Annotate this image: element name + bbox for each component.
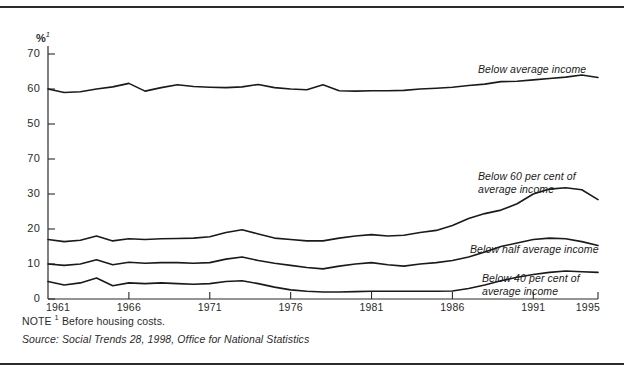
series-label-1: Below 60 per cent of average income [478, 170, 576, 195]
y-tick-label: 0 [14, 292, 40, 304]
chart-note: NOTE 1 Before housing costs. [22, 313, 165, 327]
note-prefix: NOTE [22, 315, 52, 327]
series-label-3: Below 40 per cent of average income [482, 272, 580, 297]
note-superscript: 1 [55, 313, 59, 322]
y-tick-label: 20 [14, 222, 40, 234]
y-tick-label: 50 [14, 117, 40, 129]
chart-source: Source: Social Trends 28, 1998, Office f… [22, 333, 309, 345]
x-tick-label: 1971 [198, 301, 222, 313]
note-text: Before housing costs. [62, 315, 165, 327]
x-tick-label: 1961 [46, 301, 70, 313]
y-tick-label: 70 [14, 47, 40, 59]
x-tick-label: 1976 [279, 301, 303, 313]
x-tick-label: 1995 [576, 301, 600, 313]
x-tick-label: 1966 [117, 301, 141, 313]
plot-area: %1 706050703020100 Below average incomeB… [0, 8, 624, 308]
chart-figure: %1 706050703020100 Below average incomeB… [0, 0, 624, 365]
x-tick-label: 1986 [440, 301, 464, 313]
x-tick-label: 1991 [521, 301, 545, 313]
series-line-1 [48, 188, 598, 242]
series-label-0: Below average income [478, 63, 586, 76]
y-tick-label: 60 [14, 82, 40, 94]
y-tick-label: 70 [14, 152, 40, 164]
plot-svg [0, 8, 624, 308]
y-tick-label: 30 [14, 187, 40, 199]
series-label-2: Below half average income [470, 243, 599, 256]
y-tick-label: 10 [14, 257, 40, 269]
x-tick-label: 1981 [359, 301, 383, 313]
series-line-0 [48, 75, 598, 93]
